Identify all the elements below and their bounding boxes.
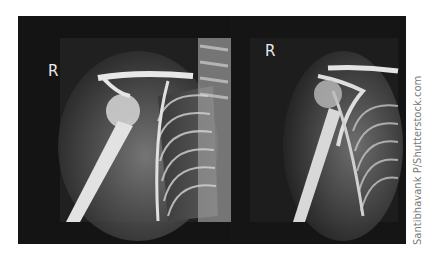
- xray-frame: R: [18, 16, 406, 244]
- right-side-marker-right: R: [265, 42, 275, 60]
- photo-credit: Santibhavank P/Shutterstock.com: [412, 76, 423, 245]
- xray-panel-right: R: [233, 16, 406, 244]
- right-side-marker-left: R: [48, 62, 58, 80]
- xray-image-right: [233, 16, 406, 244]
- xray-panel-left: R: [18, 16, 231, 244]
- xray-image-left: [18, 16, 231, 244]
